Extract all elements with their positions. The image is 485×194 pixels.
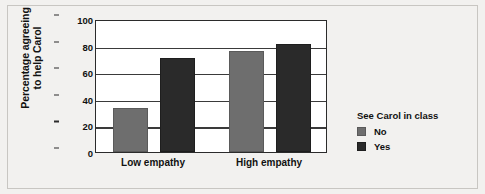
y-axis-tick-mark	[54, 94, 59, 95]
legend-item-no: No	[357, 126, 477, 137]
y-axis-tick-label: 80	[59, 41, 93, 52]
y-axis-title: Percentage agreeing to help Carol	[12, 0, 52, 128]
y-axis-tick-mark	[54, 121, 59, 122]
x-axis-category-label: High empathy	[211, 157, 327, 168]
legend: See Carol in class NoYes	[357, 110, 477, 156]
x-axis-category-label: Low empathy	[95, 157, 211, 168]
y-axis-tick-label: 20	[59, 121, 93, 132]
y-axis-tick-label: 100	[59, 15, 93, 26]
y-axis-tick-label: 60	[59, 68, 93, 79]
y-axis-tick-mark	[54, 148, 59, 149]
bar-high-empathy-yes	[276, 44, 311, 152]
legend-item-label: No	[374, 126, 387, 137]
legend-title: See Carol in class	[357, 110, 477, 121]
bar-high-empathy-no	[229, 51, 264, 152]
legend-item-label: Yes	[374, 141, 390, 152]
y-axis-tick-mark	[54, 15, 59, 16]
legend-item-yes: Yes	[357, 141, 477, 152]
y-axis-tick-mark	[54, 68, 59, 69]
y-axis-tick-mark	[54, 41, 59, 42]
y-axis-tick-label: 0	[59, 148, 93, 159]
bar-low-empathy-no	[113, 108, 148, 152]
legend-entries: NoYes	[357, 126, 477, 152]
legend-swatch-icon	[357, 127, 366, 136]
plot-area	[95, 20, 327, 153]
y-axis-title-line-2: to help Carol	[32, 27, 44, 90]
y-axis-tick-label: 40	[59, 94, 93, 105]
chart-figure: Percentage agreeing to help Carol 020406…	[0, 0, 485, 194]
legend-swatch-icon	[357, 142, 366, 151]
bar-low-empathy-yes	[160, 58, 195, 152]
